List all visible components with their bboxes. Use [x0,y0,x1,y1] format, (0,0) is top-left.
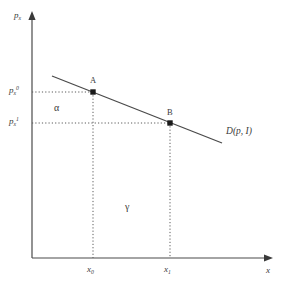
y-axis-arrow-icon [28,11,35,20]
data-point-b-marker [167,120,172,125]
x-tick-1-sub: 1 [168,269,171,275]
y-tick-label-price-1: px1 [9,117,19,127]
x-tick-0-sub: 0 [91,269,94,275]
x-axis-label: x [266,266,270,275]
data-point-a-label: A [90,76,96,85]
data-point-a-marker [90,89,95,94]
y-tick-0-sup: 0 [16,85,19,91]
demand-curve-label: D(p, I) [226,127,252,137]
data-point-b-label: B [167,108,173,117]
demand-curve-line [52,76,222,143]
demand-curve-figure: px x px0 px1 x0 x1 A B α γ D(p, I) [0,0,286,293]
demand-curve-label-d: D [226,126,233,136]
x-axis-arrow-icon [264,254,273,261]
region-label-gamma: γ [125,202,129,212]
y-tick-label-price-0: px0 [9,86,19,96]
y-axis-label: px [14,11,21,21]
y-axis-label-sub: x [19,15,22,21]
region-label-alpha: α [54,103,59,113]
y-tick-1-sup: 1 [16,116,19,122]
x-tick-label-quantity-0: x0 [87,265,94,275]
figure-canvas [0,0,286,293]
demand-curve-label-args: (p, I) [233,126,252,136]
x-tick-label-quantity-1: x1 [164,265,171,275]
